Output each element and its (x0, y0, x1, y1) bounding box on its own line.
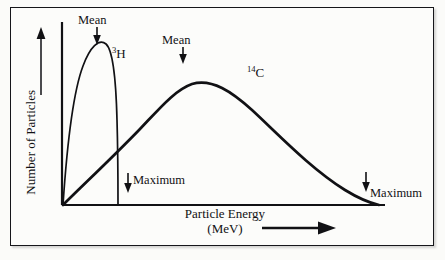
curve-label-carbon14-superscript: 14 (247, 64, 256, 74)
maximum-arrow-tritium-head (124, 183, 132, 193)
maximum-arrow-carbon14-head (362, 182, 370, 192)
curve-label-carbon14: 14C (247, 66, 264, 81)
curve-label-tritium: 3H (112, 47, 126, 62)
mean-label-tritium: Mean (78, 13, 106, 27)
x-axis-label: Particle Energy (MeV) (175, 207, 275, 236)
mean-label-carbon14: Mean (162, 33, 190, 47)
beta-spectrum-figure: Mean Mean 3H 14C Maximum Maximum Particl… (0, 0, 445, 260)
mean-arrow-tritium-head (93, 35, 101, 45)
x-axis-label-arrow-head (318, 222, 336, 235)
maximum-label-tritium: Maximum (133, 173, 185, 187)
curve-tritium (63, 42, 118, 205)
x-axis-label-line2: (MeV) (175, 222, 275, 237)
y-axis-label-arrow-head (37, 27, 46, 39)
y-axis-label: Number of Particles (24, 67, 39, 217)
mean-arrow-carbon14-head (179, 54, 187, 64)
curve-carbon14 (63, 83, 379, 205)
curve-label-tritium-element: H (116, 46, 125, 61)
maximum-label-carbon14: Maximum (370, 186, 422, 200)
curve-label-carbon14-element: C (256, 65, 265, 80)
x-axis-label-line1: Particle Energy (175, 207, 275, 222)
